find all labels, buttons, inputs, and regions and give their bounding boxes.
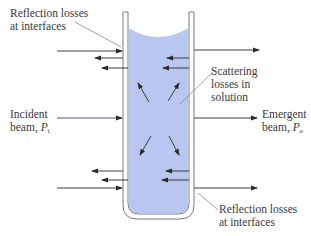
label-emergent-beam: Emergent beam, Pe xyxy=(262,108,307,134)
diagram-canvas: Reflection losses at interfaces Scatteri… xyxy=(0,0,311,236)
label-incident-prefix: beam, xyxy=(10,121,41,133)
leader-reflection-bottom xyxy=(198,193,218,210)
label-reflection-bottom-line2: at interfaces xyxy=(219,216,297,229)
label-incident-beam: Incident beam, Pi xyxy=(10,108,50,134)
label-reflection-bottom-line1: Reflection losses xyxy=(219,203,297,216)
label-scattering-line2: losses in xyxy=(211,78,258,91)
label-emergent-prefix: beam, xyxy=(262,121,293,133)
label-incident-line1: Incident xyxy=(10,108,50,121)
solution xyxy=(129,28,189,214)
label-scattering: Scattering losses in solution xyxy=(211,65,258,104)
label-emergent-line1: Emergent xyxy=(262,108,307,121)
label-reflection-top: Reflection losses at interfaces xyxy=(10,7,88,33)
label-reflection-top-line1: Reflection losses xyxy=(10,7,88,20)
label-scattering-line3: solution xyxy=(211,91,258,104)
label-incident-subscript: i xyxy=(48,127,50,135)
label-incident-symbol: P xyxy=(41,121,48,133)
label-reflection-top-line2: at interfaces xyxy=(10,20,88,33)
label-emergent-line2: beam, Pe xyxy=(262,121,307,134)
label-emergent-symbol: P xyxy=(293,121,300,133)
label-incident-line2: beam, Pi xyxy=(10,121,50,134)
label-reflection-bottom: Reflection losses at interfaces xyxy=(219,203,297,229)
label-emergent-subscript: e xyxy=(300,127,303,135)
label-scattering-line1: Scattering xyxy=(211,65,258,78)
